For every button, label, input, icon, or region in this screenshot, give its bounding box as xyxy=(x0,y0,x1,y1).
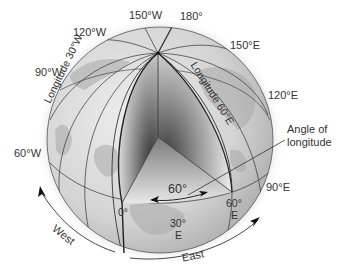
label-30e-num: 30° xyxy=(170,218,186,229)
label-90e: 90°E xyxy=(266,182,290,193)
label-120e: 120°E xyxy=(268,90,298,101)
longitude-diagram: 150°W 180° 120°W 150°E 90°W 120°E 60°W 9… xyxy=(0,0,345,276)
label-60w: 60°W xyxy=(14,148,41,159)
angle-value: 60° xyxy=(168,183,187,196)
label-60e-dir: E xyxy=(231,210,238,221)
label-150w: 150°W xyxy=(129,10,162,21)
label-150e: 150°E xyxy=(230,40,260,51)
west-arrowhead-icon xyxy=(38,186,46,197)
label-prime-meridian: 0° xyxy=(118,207,128,218)
label-30e-dir: E xyxy=(175,230,182,241)
callout-longitude: longitude xyxy=(287,137,332,148)
label-180: 180° xyxy=(180,11,203,22)
label-60e-num: 60° xyxy=(226,198,242,209)
callout-angle-of: Angle of xyxy=(287,124,327,135)
